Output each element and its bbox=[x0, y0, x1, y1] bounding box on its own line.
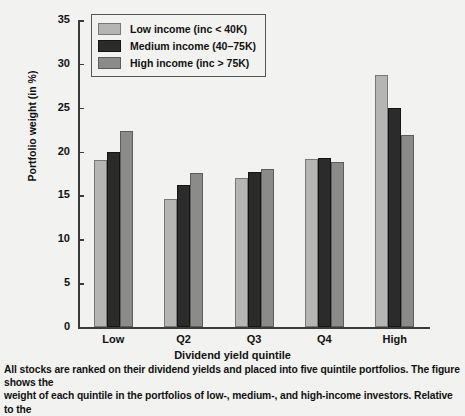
x-tick-label: Q4 bbox=[294, 333, 354, 345]
bar[interactable] bbox=[164, 199, 177, 327]
y-tick-label: 30 bbox=[40, 57, 70, 69]
y-tick-mark bbox=[78, 327, 84, 329]
bar[interactable] bbox=[388, 108, 401, 327]
legend-label: Medium income (40–75K) bbox=[130, 40, 256, 52]
bar-group bbox=[305, 20, 344, 327]
x-tick-label: Q2 bbox=[154, 333, 214, 345]
y-tick-label: 5 bbox=[40, 276, 70, 288]
legend-item[interactable]: Low income (inc < 40K) bbox=[98, 20, 256, 37]
bar[interactable] bbox=[107, 152, 120, 327]
legend-swatch-icon bbox=[98, 40, 121, 52]
y-tick-label: 10 bbox=[40, 232, 70, 244]
bar[interactable] bbox=[401, 135, 414, 327]
y-tick-label: 25 bbox=[40, 101, 70, 113]
bar[interactable] bbox=[305, 159, 318, 327]
legend-item[interactable]: Medium income (40–75K) bbox=[98, 37, 256, 54]
y-tick-label: 35 bbox=[40, 13, 70, 25]
y-tick-label: 15 bbox=[40, 188, 70, 200]
figure-caption: All stocks are ranked on their dividend … bbox=[4, 363, 461, 416]
bar[interactable] bbox=[235, 178, 248, 327]
x-tick-label: Low bbox=[83, 333, 143, 345]
bar[interactable] bbox=[331, 162, 344, 327]
legend-swatch-icon bbox=[98, 57, 121, 69]
bar[interactable] bbox=[248, 172, 261, 327]
legend-item[interactable]: High income (inc > 75K) bbox=[98, 54, 256, 71]
legend-label: Low income (inc < 40K) bbox=[130, 23, 247, 35]
bar[interactable] bbox=[375, 75, 388, 327]
bar[interactable] bbox=[261, 169, 274, 327]
bar[interactable] bbox=[177, 185, 190, 327]
bar[interactable] bbox=[94, 160, 107, 327]
x-axis-label: Dividend yield quintile bbox=[0, 349, 465, 361]
chart-legend: Low income (inc < 40K)Medium income (40–… bbox=[91, 14, 266, 77]
y-tick-label: 0 bbox=[40, 320, 70, 332]
bar-group bbox=[375, 20, 414, 327]
bar[interactable] bbox=[318, 158, 331, 327]
bar[interactable] bbox=[190, 173, 203, 327]
y-tick-label: 20 bbox=[40, 145, 70, 157]
bar[interactable] bbox=[120, 131, 133, 327]
x-tick-label: High bbox=[365, 333, 425, 345]
x-tick-label: Q3 bbox=[224, 333, 284, 345]
x-axis-line bbox=[78, 327, 430, 329]
y-axis-label: Portfolio weight (in %) bbox=[26, 26, 38, 226]
legend-label: High income (inc > 75K) bbox=[130, 57, 249, 69]
legend-swatch-icon bbox=[98, 23, 121, 35]
caption-line-2: weight of each quintile in the portfolio… bbox=[4, 389, 461, 415]
caption-line-1: All stocks are ranked on their dividend … bbox=[4, 363, 461, 389]
